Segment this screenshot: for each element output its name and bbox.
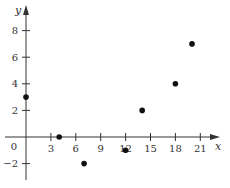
x-axis-label: x bbox=[215, 140, 222, 153]
ticks: 036912151821−22468 bbox=[3, 25, 206, 169]
data-point bbox=[173, 81, 179, 87]
y-tick-label: 8 bbox=[12, 25, 18, 36]
y-tick-label: 2 bbox=[12, 105, 18, 116]
data-point bbox=[123, 148, 129, 154]
data-point bbox=[139, 108, 145, 114]
axes: xy bbox=[5, 4, 222, 180]
origin-label: 0 bbox=[11, 141, 17, 152]
x-tick-label: 6 bbox=[73, 143, 79, 154]
x-tick-label: 21 bbox=[194, 143, 207, 154]
scatter-chart: xy 036912151821−22468 bbox=[0, 0, 230, 188]
y-tick-label: −2 bbox=[3, 158, 18, 169]
x-tick-label: 18 bbox=[169, 143, 182, 154]
data-point bbox=[81, 161, 87, 167]
y-tick-label: 4 bbox=[12, 78, 18, 89]
x-tick-label: 3 bbox=[48, 143, 54, 154]
data-point bbox=[189, 41, 195, 47]
y-axis-label: y bbox=[14, 4, 22, 17]
y-axis-arrow-icon bbox=[23, 5, 29, 15]
data-point bbox=[56, 134, 62, 140]
x-tick-label: 15 bbox=[144, 143, 157, 154]
data-point bbox=[23, 94, 29, 100]
x-tick-label: 9 bbox=[98, 143, 104, 154]
y-tick-label: 6 bbox=[12, 52, 18, 63]
